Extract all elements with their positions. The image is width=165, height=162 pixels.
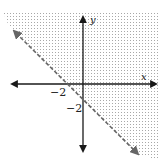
y-tick-label: −2 <box>66 102 82 115</box>
inequality-graph: y x −2 −2 <box>0 0 165 162</box>
y-axis-label: y <box>89 14 96 25</box>
x-tick-label: −2 <box>50 86 66 99</box>
x-axis-label: x <box>141 71 147 82</box>
